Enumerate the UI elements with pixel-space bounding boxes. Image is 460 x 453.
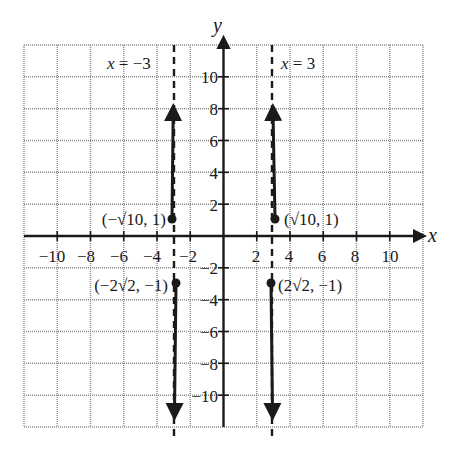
- x-tick-label: −4: [143, 247, 162, 266]
- y-tick-label: −8: [200, 355, 218, 374]
- y-axis-label: y: [211, 14, 222, 37]
- point-lower-left: [172, 279, 181, 288]
- x-tick-label: −10: [39, 247, 66, 266]
- x-tick-label: 4: [285, 247, 294, 266]
- y-tick-label: 2: [210, 196, 219, 215]
- x-tick-label: −6: [110, 247, 128, 266]
- y-tick-label: −4: [200, 291, 219, 310]
- branch-upper-right: [273, 112, 275, 219]
- x-tick-label: −2: [179, 247, 197, 266]
- point-label-lower-left: (−2√2, −1): [94, 276, 168, 295]
- branch-upper-left: [172, 112, 173, 219]
- y-tick-label: −6: [200, 323, 218, 342]
- y-tick-label: 6: [210, 132, 219, 151]
- x-tick-label: 10: [382, 247, 399, 266]
- y-tick-label: −2: [200, 259, 218, 278]
- point-label-upper-right: (√10, 1): [284, 210, 339, 229]
- x-tick-label: 2: [252, 247, 261, 266]
- y-tick-label: −10: [191, 387, 218, 406]
- y-tick-label: 10: [201, 68, 218, 87]
- graph: x y −10 −8 −6 −4 −2 2 4 6 8 10 10 8 6 4 …: [0, 0, 460, 453]
- x-tick-label: 8: [351, 247, 360, 266]
- x-tick-labels: −10 −8 −6 −4 −2 2 4 6 8 10: [39, 247, 399, 266]
- x-tick-label: −8: [77, 247, 95, 266]
- asymptote-left-label: x = −3: [106, 54, 151, 73]
- point-upper-left: [168, 215, 177, 224]
- branch-lower-left: [175, 283, 177, 412]
- y-tick-label: 8: [210, 100, 219, 119]
- x-tick-label: 6: [318, 247, 327, 266]
- point-label-upper-left: (−√10, 1): [102, 210, 166, 229]
- asymptote-right-label: x = 3: [280, 54, 315, 73]
- point-label-lower-right: (2√2, −1): [278, 276, 342, 295]
- point-lower-right: [267, 279, 276, 288]
- branch-lower-right: [271, 283, 273, 412]
- point-upper-right: [271, 215, 280, 224]
- y-tick-label: 4: [210, 164, 219, 183]
- x-axis-label: x: [427, 224, 437, 246]
